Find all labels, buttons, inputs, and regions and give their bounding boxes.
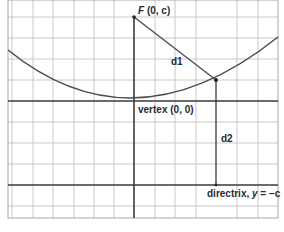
directrix-eq: = −c [258, 188, 281, 199]
directrix-prefix: directrix, [207, 188, 252, 199]
focus-name: F [138, 5, 144, 16]
directrix-foot-point [215, 184, 218, 187]
d2-label: d2 [221, 133, 233, 145]
vertex-label: vertex (0, 0) [138, 104, 194, 116]
focus-coords: (0, c) [147, 5, 170, 16]
parabola-diagram: F (0, c) d1 vertex (0, 0) d2 directrix, … [0, 0, 284, 232]
directrix-label: directrix, y = −c [207, 188, 280, 200]
parabola-point [214, 78, 218, 82]
focus-label: F (0, c) [138, 5, 170, 17]
focus-point [132, 15, 136, 19]
d1-label: d1 [171, 56, 183, 68]
